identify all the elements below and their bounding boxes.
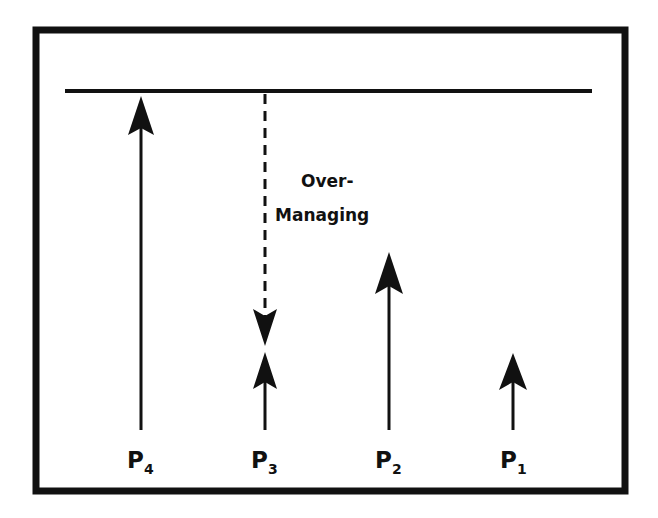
arrowhead-down-icon xyxy=(253,309,277,346)
arrow-p1 xyxy=(499,353,527,430)
annotation-line-1: Over- xyxy=(301,171,354,191)
arrow-p4 xyxy=(128,96,154,430)
svg-text:P: P xyxy=(127,447,144,473)
overmanaging-arrow xyxy=(253,94,277,346)
annotation-line-2: Managing xyxy=(275,205,369,225)
label-p1: P 1 xyxy=(500,447,527,477)
diagram-canvas: Over- Managing P 4 P 3 P 2 P 1 xyxy=(0,0,658,518)
diagram-frame xyxy=(36,30,625,491)
label-p2: P 2 xyxy=(375,447,402,477)
svg-text:2: 2 xyxy=(392,461,402,477)
svg-text:P: P xyxy=(500,447,517,473)
svg-text:P: P xyxy=(251,447,268,473)
svg-text:P: P xyxy=(375,447,392,473)
arrow-p3 xyxy=(253,352,277,430)
svg-text:4: 4 xyxy=(144,461,154,477)
arrow-p2 xyxy=(375,252,403,430)
svg-text:1: 1 xyxy=(517,461,527,477)
svg-text:3: 3 xyxy=(268,461,278,477)
label-p3: P 3 xyxy=(251,447,278,477)
label-p4: P 4 xyxy=(127,447,154,477)
